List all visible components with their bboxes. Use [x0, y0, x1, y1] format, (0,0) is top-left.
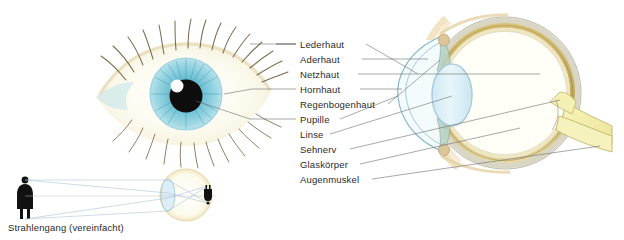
- ray-diagram-caption: Strahlengang (vereinfacht): [8, 222, 124, 233]
- label-glaskoerper: Glaskörper: [300, 160, 348, 170]
- eye-photograph: [96, 19, 288, 168]
- label-augenmuskel: Augenmuskel: [300, 175, 359, 185]
- ciliary-body-upper: [439, 34, 450, 46]
- label-sehnerv: Sehnerv: [300, 145, 336, 155]
- label-pupille: Pupille: [300, 115, 330, 125]
- catchlight: [171, 80, 184, 93]
- label-regenbogenhaut: Regenbogenhaut: [300, 100, 375, 110]
- ray-diagram-lens: [161, 179, 175, 211]
- eye-anatomy-figure: LederhautAderhautNetzhautHornhautRegenbo…: [0, 0, 624, 240]
- label-netzhaut: Netzhaut: [300, 70, 339, 80]
- ray-path-diagram: [17, 169, 216, 221]
- label-lederhaut: Lederhaut: [300, 40, 344, 50]
- label-aderhaut: Aderhaut: [300, 55, 340, 65]
- label-linse: Linse: [300, 130, 323, 140]
- object-person-silhouette: [17, 177, 33, 219]
- label-hornhaut: Hornhaut: [300, 85, 340, 95]
